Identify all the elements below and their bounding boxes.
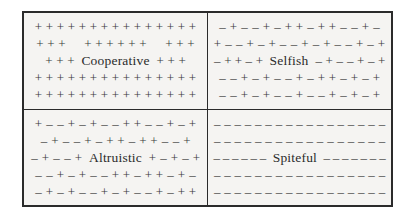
plus-symbol: + xyxy=(33,18,44,35)
plus-symbol: + xyxy=(187,86,198,103)
plus-symbol: + xyxy=(267,35,278,52)
quadrant-spiteful: ––––––––––––––––––––––––––––––––––––––––… xyxy=(208,110,391,206)
minus-symbol: – xyxy=(283,69,294,86)
plus-symbol: + xyxy=(127,35,138,52)
plus-symbol: + xyxy=(294,86,305,103)
plus-symbol: + xyxy=(57,35,68,52)
minus-symbol: – xyxy=(263,183,273,200)
minus-symbol: – xyxy=(154,115,165,132)
symbol-row: –+––+Altruistic+–+–+ xyxy=(24,149,207,166)
minus-symbol: – xyxy=(334,52,345,69)
plus-symbol: + xyxy=(371,69,382,86)
minus-symbol: – xyxy=(294,115,304,132)
minus-symbol: – xyxy=(253,166,263,183)
minus-symbol: – xyxy=(366,132,376,149)
minus-symbol: – xyxy=(338,86,349,103)
minus-symbol: – xyxy=(366,115,376,132)
quadrant-label-cooperative: Cooperative xyxy=(76,52,154,69)
minus-symbol: – xyxy=(132,166,143,183)
minus-symbol: – xyxy=(272,69,283,86)
minus-symbol: – xyxy=(77,115,88,132)
minus-symbol: – xyxy=(366,166,376,183)
minus-symbol: – xyxy=(253,183,263,200)
minus-symbol: – xyxy=(39,132,50,149)
minus-symbol: – xyxy=(127,132,138,149)
minus-symbol: – xyxy=(158,149,169,166)
plus-symbol: + xyxy=(176,86,187,103)
plus-symbol: + xyxy=(88,69,99,86)
plus-symbol: + xyxy=(349,86,360,103)
minus-symbol: – xyxy=(222,166,232,183)
plus-symbol: + xyxy=(175,35,186,52)
minus-symbol: – xyxy=(336,183,346,200)
plus-symbol: + xyxy=(349,69,360,86)
minus-symbol: – xyxy=(165,166,176,183)
plus-symbol: + xyxy=(212,35,223,52)
plus-symbol: + xyxy=(66,86,77,103)
minus-symbol: – xyxy=(253,132,263,149)
minus-symbol: – xyxy=(110,183,121,200)
plus-symbol: + xyxy=(376,52,387,69)
symbol-row: –++–+Selfish–+––+–+ xyxy=(208,52,391,69)
minus-symbol: – xyxy=(143,115,154,132)
plus-symbol: + xyxy=(99,18,110,35)
minus-symbol: – xyxy=(263,132,273,149)
minus-symbol: – xyxy=(368,149,377,166)
minus-symbol: – xyxy=(283,86,294,103)
plus-symbol: + xyxy=(143,69,154,86)
symbol-row: +++Cooperative+++ xyxy=(24,52,207,69)
plus-symbol: + xyxy=(105,132,116,149)
minus-symbol: – xyxy=(346,132,356,149)
plus-symbol: + xyxy=(283,18,294,35)
plus-symbol: + xyxy=(110,18,121,35)
plus-symbol: + xyxy=(99,183,110,200)
minus-symbol: – xyxy=(253,115,263,132)
minus-symbol: – xyxy=(305,166,315,183)
plus-symbol: + xyxy=(121,69,132,86)
plus-symbol: + xyxy=(138,132,149,149)
plus-symbol: + xyxy=(324,52,335,69)
minus-symbol: – xyxy=(305,115,315,132)
minus-symbol: – xyxy=(33,183,44,200)
symbol-row: +++++++++++++++ xyxy=(24,86,207,103)
plus-symbol: + xyxy=(355,52,366,69)
minus-symbol: – xyxy=(99,115,110,132)
minus-symbol: – xyxy=(243,132,253,149)
symbol-row: +––+–+––+–+––+–+ xyxy=(208,35,391,52)
plus-symbol: + xyxy=(154,69,165,86)
plus-symbol: + xyxy=(55,69,66,86)
plus-symbol: + xyxy=(121,18,132,35)
plus-symbol: + xyxy=(55,18,66,35)
plus-symbol: + xyxy=(121,86,132,103)
minus-symbol: – xyxy=(346,166,356,183)
plus-symbol: + xyxy=(154,86,165,103)
symbol-row: ––––––––––––––––– xyxy=(208,183,391,200)
plus-symbol: + xyxy=(44,69,55,86)
minus-symbol: – xyxy=(256,35,267,52)
minus-symbol: – xyxy=(313,52,324,69)
minus-symbol: – xyxy=(243,166,253,183)
plus-symbol: + xyxy=(55,86,66,103)
minus-symbol: – xyxy=(62,149,73,166)
minus-symbol: – xyxy=(187,166,198,183)
minus-symbol: – xyxy=(51,149,62,166)
minus-symbol: – xyxy=(371,18,382,35)
minus-symbol: – xyxy=(160,132,171,149)
minus-symbol: – xyxy=(377,132,387,149)
plus-symbol: + xyxy=(300,35,311,52)
plus-symbol: + xyxy=(165,69,176,86)
plus-symbol: + xyxy=(94,35,105,52)
minus-symbol: – xyxy=(322,149,331,166)
symbol-row: –+––+–++–++––+– xyxy=(208,18,391,35)
minus-symbol: – xyxy=(310,35,321,52)
minus-symbol: – xyxy=(94,132,105,149)
plus-symbol: + xyxy=(177,52,188,69)
plus-symbol: + xyxy=(77,18,88,35)
minus-symbol: – xyxy=(212,183,222,200)
minus-symbol: – xyxy=(274,183,284,200)
minus-symbol: – xyxy=(284,132,294,149)
plus-symbol: + xyxy=(110,69,121,86)
minus-symbol: – xyxy=(272,86,283,103)
minus-symbol: – xyxy=(284,166,294,183)
plus-symbol: + xyxy=(327,69,338,86)
